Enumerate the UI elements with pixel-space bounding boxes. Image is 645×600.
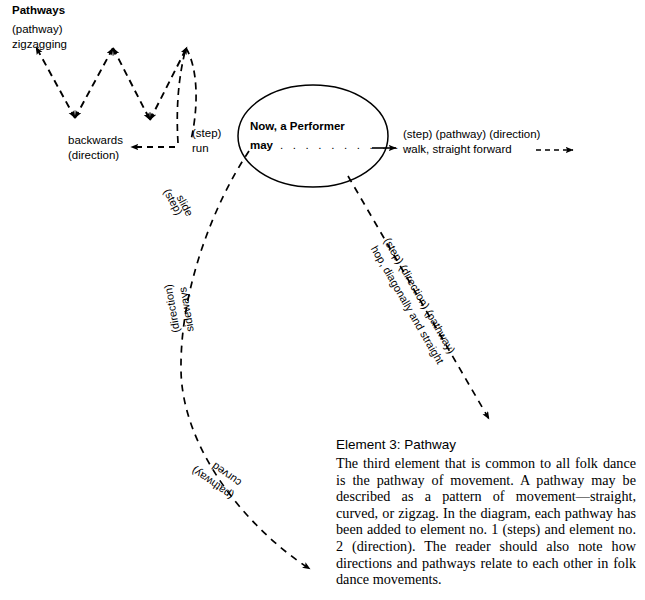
zigzag-pathway-value: zigzagging bbox=[12, 37, 67, 52]
backwards-direction-qualifier: (direction) bbox=[68, 148, 119, 163]
backwards-direction-value: backwards bbox=[68, 133, 123, 148]
article-paragraph: The third element that is common to all … bbox=[336, 455, 636, 588]
zigzag-pathway-qualifier: (pathway) bbox=[12, 22, 63, 37]
slide-curved-path bbox=[181, 151, 310, 569]
article-title: Element 3: Pathway bbox=[336, 437, 456, 452]
center-ellipse bbox=[238, 85, 388, 187]
figure-heading: Pathways bbox=[12, 3, 65, 18]
run-step-value: run bbox=[192, 141, 209, 156]
center-node-line1: Now, a Performer bbox=[250, 118, 345, 135]
pathways-diagram: Pathways (pathway) zigzagging backwards … bbox=[0, 0, 645, 600]
run-step-qualifier: (step) bbox=[192, 126, 221, 141]
center-node-line2: may bbox=[250, 137, 273, 154]
walk-forward-value: walk, straight forward bbox=[403, 142, 512, 157]
zigzag-pathway bbox=[36, 47, 187, 120]
walk-forward-qualifiers: (step) (pathway) (direction) bbox=[403, 127, 540, 142]
